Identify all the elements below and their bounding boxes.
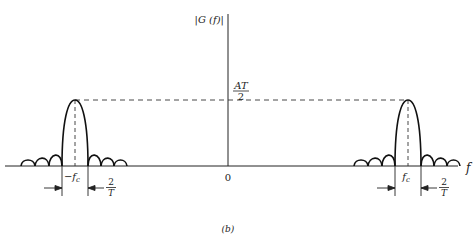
right-sidelobe-l3: [354, 160, 368, 166]
arrow-right-icon: [55, 186, 62, 191]
right-sidelobe-r1: [421, 155, 434, 166]
right-width-denominator: T: [441, 188, 448, 198]
left-sidelobe-l1: [49, 155, 62, 166]
figure-caption: (b): [222, 224, 235, 234]
right-spectrum: [354, 100, 460, 166]
left-sidelobe-r2: [101, 158, 114, 166]
spectrum-diagram: |G (f)| f 0 AT 2 −fc fc 2 T 2 T (b): [0, 0, 474, 240]
right-sidelobe-r2: [434, 158, 447, 166]
right-sidelobe-l2: [368, 158, 382, 166]
left-width-denominator: T: [108, 188, 115, 198]
left-sidelobe-l3: [21, 160, 35, 166]
left-sidelobe-r1: [88, 155, 101, 166]
left-sidelobe-r3: [114, 160, 127, 166]
peak-label-denominator: 2: [238, 91, 244, 102]
left-sidelobe-l2: [35, 158, 49, 166]
right-width-numerator: 2: [441, 177, 447, 187]
left-width-numerator: 2: [108, 177, 114, 187]
arrow-left-icon: [88, 186, 95, 191]
x-axis-label: f: [465, 161, 473, 175]
arrow-left-icon: [421, 186, 428, 191]
left-carrier-label: −fc: [64, 171, 80, 184]
origin-label: 0: [225, 172, 231, 183]
left-spectrum: [21, 100, 127, 166]
right-sidelobe-r3: [447, 160, 460, 166]
peak-label-numerator: AT: [233, 80, 249, 91]
y-axis-label: |G (f)|: [195, 14, 224, 26]
arrow-right-icon: [388, 186, 395, 191]
right-carrier-label: fc: [401, 171, 410, 184]
right-sidelobe-l1: [382, 155, 395, 166]
